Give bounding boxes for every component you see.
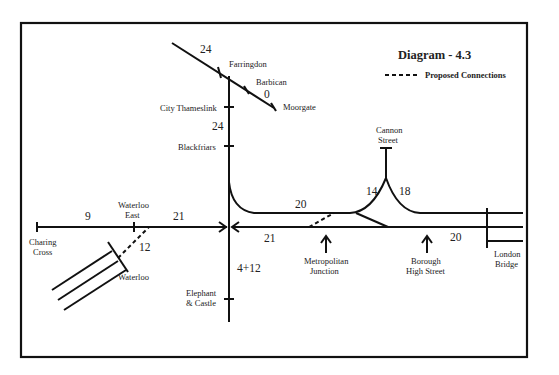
station-city-thameslink: City Thameslink <box>160 103 217 113</box>
segment-value: 0 <box>264 88 270 100</box>
segment-value: 12 <box>139 241 151 253</box>
farringdon-moorgate-line <box>172 43 274 108</box>
station-borough-high-street: Borough <box>411 256 442 266</box>
station-metropolitan-junction: Metropolitan <box>304 256 349 266</box>
station-london-bridge: London <box>494 249 521 259</box>
upper-line <box>229 182 350 213</box>
segment-value: 24 <box>200 43 212 55</box>
station-elephant-castle: Elephant <box>186 288 217 298</box>
station-farringdon: Farringdon <box>229 59 268 69</box>
diagram-title: Diagram - 4.3 <box>398 48 471 62</box>
station-london-bridge: Bridge <box>495 259 518 269</box>
station-charing-cross: Charing <box>29 237 57 247</box>
segment-value: 14 <box>366 185 378 197</box>
station-metropolitan-junction: Junction <box>310 266 340 276</box>
proposed-metropolitan-link <box>309 213 334 227</box>
station-blackfriars: Blackfriars <box>178 142 216 152</box>
station-cannon-street: Street <box>378 135 398 145</box>
station-cannon-street: Cannon <box>376 125 403 135</box>
segment-value: 20 <box>450 231 462 243</box>
station-elephant-castle: & Castle <box>186 298 216 308</box>
railway-diagram: Diagram - 4.3 Proposed Connections 24 Fa… <box>0 0 559 375</box>
segment-value: 9 <box>85 210 91 222</box>
station-borough-high-street: High Street <box>406 266 446 276</box>
legend-label: Proposed Connections <box>425 70 507 80</box>
segment-value: 21 <box>173 210 185 222</box>
segment-value: 20 <box>295 198 307 210</box>
crossover-line <box>356 213 388 227</box>
station-barbican: Barbican <box>256 77 287 87</box>
station-waterloo-east: East <box>125 210 140 220</box>
segment-value: 18 <box>399 185 411 197</box>
station-waterloo-east: Waterloo <box>118 200 149 210</box>
segment-value: 4+12 <box>237 262 261 274</box>
segment-value: 24 <box>212 120 224 132</box>
segment-value: 21 <box>264 232 276 244</box>
station-charing-cross: Cross <box>33 247 52 257</box>
station-moorgate: Moorgate <box>283 102 316 112</box>
station-waterloo: Waterloo <box>118 272 149 282</box>
